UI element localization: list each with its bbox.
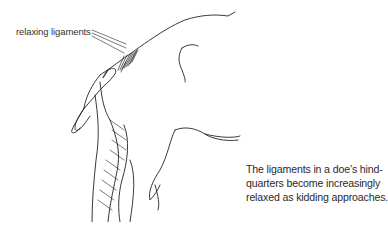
caption-line-1: The ligaments in a doe’s hind- (246, 162, 371, 176)
figure-caption: The ligaments in a doe’s hind- quarters … (246, 162, 371, 204)
relaxing-ligaments-label: relaxing ligaments (16, 26, 91, 37)
caption-line-2: quarters become increasingly (246, 176, 371, 190)
caption-line-3: relaxed as kidding approaches. (246, 190, 371, 204)
